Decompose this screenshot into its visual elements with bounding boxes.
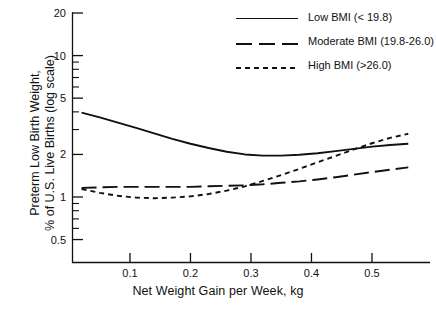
y-axis-label: Preterm Low Birth Weight, % of U.S. Live…: [28, 28, 58, 258]
data-series-line: [82, 167, 409, 188]
data-series-group: [82, 113, 409, 199]
y-axis-label-line1: Preterm Low Birth Weight,: [28, 28, 43, 258]
y-axis-label-line2: % of U.S. Live Births (log scale): [43, 28, 58, 258]
x-tick-label: 0.4: [304, 267, 319, 279]
legend: Low BMI (< 19.8) Moderate BMI (19.8-26.0…: [236, 10, 432, 82]
legend-label: Low BMI (< 19.8): [308, 11, 392, 23]
x-axis-label: Net Weight Gain per Week, kg: [0, 284, 436, 298]
legend-swatch-short-dash-line: [236, 67, 298, 69]
y-minor-ticks: [73, 62, 80, 228]
data-series-line: [82, 113, 409, 156]
legend-item-low-bmi: Low BMI (< 19.8): [236, 10, 432, 34]
legend-swatch-solid-line: [236, 18, 298, 22]
x-major-ticks: [130, 253, 372, 263]
x-tick-label: 0.1: [122, 267, 137, 279]
legend-label: Moderate BMI (19.8-26.0): [308, 35, 434, 47]
x-tick-label: 0.3: [243, 267, 258, 279]
data-series-line: [82, 134, 409, 198]
legend-item-high-bmi: High BMI (>26.0): [236, 58, 432, 82]
legend-swatch-long-dash-line: [236, 43, 298, 45]
legend-label: High BMI (>26.0): [308, 59, 391, 71]
x-tick-label: 0.2: [183, 267, 198, 279]
chart-figure: 0.51251020 0.10.20.30.40.5 Preterm Low B…: [0, 0, 436, 310]
y-major-ticks: [73, 13, 84, 240]
y-tick-label: 20: [22, 7, 66, 19]
legend-item-moderate-bmi: Moderate BMI (19.8-26.0): [236, 34, 432, 58]
x-tick-label: 0.5: [364, 267, 379, 279]
